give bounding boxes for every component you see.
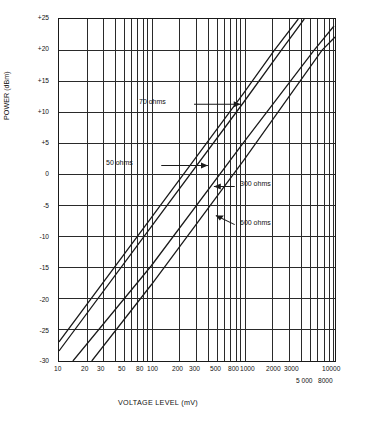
y-tick-label-m25: -25 (39, 328, 49, 335)
y-tick-label-10: +10 (38, 109, 49, 116)
y-tick-label-m10: -10 (39, 234, 49, 241)
y-axis-title: POWER (dBm) (2, 106, 11, 120)
arrow-300-ohms (214, 183, 235, 189)
y-tick-label-m15: -15 (39, 265, 49, 272)
y-tick-label-m20: -20 (39, 297, 49, 304)
y-tick-label-15: +15 (38, 78, 49, 85)
y-tick-label-20: +20 (38, 46, 49, 53)
x-tick-label-8000: 8000 (318, 378, 333, 385)
x-tick-label-2000: 2000 (266, 366, 281, 373)
y-tick-label-m30: -30 (39, 358, 49, 365)
x-tick-label-1000: 1000 (240, 366, 255, 373)
x-axis-title: VOLTAGE LEVEL (mV) (118, 398, 198, 407)
chart-figure: POWER (dBm) +25 +20 +15 +10 +5 0 -5 -10 … (0, 0, 390, 433)
annotation-50-ohms: 50 ohms (106, 159, 133, 166)
annotation-70-ohms: 70 ohms (139, 98, 166, 105)
x-tick-label-50: 50 (118, 366, 125, 373)
x-tick-label-80: 80 (136, 366, 143, 373)
y-tick-label-25: +25 (38, 15, 49, 22)
arrow-50-ohms (161, 162, 208, 168)
annotation-600-ohms: 600 ohms (240, 219, 271, 226)
impedance-curves (59, 19, 335, 361)
x-tick-label-500: 500 (210, 366, 221, 373)
arrow-600-ohms (216, 216, 235, 225)
x-tick-label-10: 10 (54, 366, 61, 373)
y-tick-label-m5: -5 (43, 203, 49, 210)
x-tick-label-3000: 3000 (284, 366, 299, 373)
x-tick-label-20: 20 (81, 366, 88, 373)
curve-300-ohms (73, 26, 334, 361)
x-tick-label-200: 200 (172, 366, 183, 373)
plot-area: 70 ohms 50 ohms 300 ohms 600 ohms (58, 18, 336, 362)
x-tick-label-100: 100 (147, 366, 158, 373)
y-tick-label-5: +5 (41, 140, 49, 147)
y-tick-label-0: 0 (45, 171, 49, 178)
x-tick-label-800: 800 (228, 366, 239, 373)
x-tick-label-5000: 5 000 (296, 378, 313, 385)
x-tick-label-10000: 10000 (322, 366, 340, 373)
curve-600-ohms (92, 37, 335, 361)
x-tick-label-300: 300 (189, 366, 200, 373)
annotation-300-ohms: 300 ohms (240, 180, 271, 187)
x-tick-label-30: 30 (97, 366, 104, 373)
